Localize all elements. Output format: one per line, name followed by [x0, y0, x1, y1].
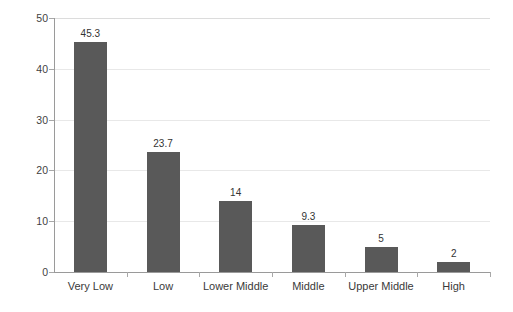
bar-value-label: 14 — [206, 187, 266, 198]
y-tick-label: 10 — [4, 216, 48, 226]
bar-value-label: 2 — [424, 248, 484, 259]
bar-value-label: 5 — [351, 233, 411, 244]
plot-area — [54, 18, 490, 272]
x-tick-mark — [345, 272, 346, 277]
y-tick: 40 — [0, 64, 48, 74]
bar[interactable] — [74, 42, 107, 272]
y-tick-label: 50 — [4, 13, 48, 23]
bar[interactable] — [147, 152, 180, 272]
y-tick: 0 — [0, 267, 48, 277]
bar[interactable] — [437, 262, 470, 272]
bar[interactable] — [292, 225, 325, 272]
x-category-label: High — [404, 280, 504, 293]
bar-value-label: 23.7 — [133, 138, 193, 149]
y-tick-label: 30 — [4, 115, 48, 125]
y-tick-label: 0 — [4, 267, 48, 277]
bar-value-label: 45.3 — [60, 28, 120, 39]
y-tick: 30 — [0, 115, 48, 125]
x-tick-mark — [199, 272, 200, 277]
bar-chart: 01020304050 45.3Very Low23.7Low14Lower M… — [0, 0, 513, 312]
bar[interactable] — [219, 201, 252, 272]
bar-value-label: 9.3 — [278, 211, 338, 222]
y-tick-label: 40 — [4, 64, 48, 74]
y-tick: 50 — [0, 13, 48, 23]
y-tick: 20 — [0, 165, 48, 175]
y-tick-label: 20 — [4, 165, 48, 175]
x-tick-mark — [417, 272, 418, 277]
y-tick: 10 — [0, 216, 48, 226]
x-tick-mark — [272, 272, 273, 277]
bar[interactable] — [365, 247, 398, 272]
x-tick-mark — [127, 272, 128, 277]
x-tick-mark — [490, 272, 491, 277]
